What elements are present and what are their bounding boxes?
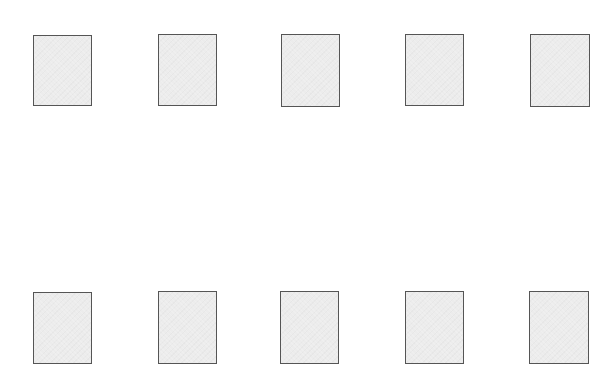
- placeholder-box: [405, 34, 464, 106]
- placeholder-box: [33, 292, 92, 364]
- placeholder-box: [280, 291, 339, 364]
- placeholder-box: [158, 34, 217, 106]
- placeholder-box: [281, 34, 340, 107]
- placeholder-box: [530, 34, 590, 107]
- placeholder-box: [405, 291, 464, 364]
- placeholder-box: [33, 35, 92, 106]
- placeholder-box: [529, 291, 589, 364]
- placeholder-box: [158, 291, 217, 364]
